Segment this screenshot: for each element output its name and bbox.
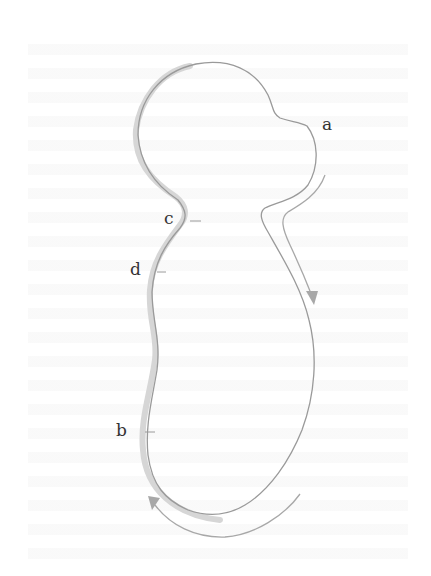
label-a: a — [322, 116, 332, 133]
flow-path-bottom — [155, 494, 300, 537]
label-b: b — [116, 422, 127, 439]
arrowhead-up-left-icon — [148, 496, 160, 510]
arrowhead-down-icon — [306, 291, 318, 305]
organ-outline — [138, 62, 316, 514]
organ-outline-diagram — [0, 0, 431, 576]
label-d: d — [130, 261, 141, 278]
left-shading-band — [136, 66, 220, 520]
flow-path-right — [283, 175, 325, 296]
label-c: c — [164, 210, 174, 227]
